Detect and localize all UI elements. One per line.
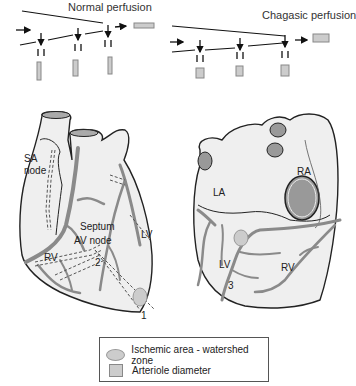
normal-perfusion-schematic xyxy=(16,11,154,80)
label-sa-node-line2: node xyxy=(24,166,46,176)
legend-label-ischemic: Ischemic area - watershed zone xyxy=(131,344,268,366)
heart-anterior-view xyxy=(20,112,155,313)
marker-1: 1 xyxy=(141,311,147,321)
square-swatch-icon xyxy=(109,364,123,377)
label-rv-right: RV xyxy=(281,263,295,273)
legend-item-arteriole: Arteriole diameter xyxy=(106,364,211,377)
ellipse-swatch-icon xyxy=(106,349,125,361)
chagasic-perfusion-title: Chagasic perfusion xyxy=(262,10,356,21)
normal-perfusion-title: Normal perfusion xyxy=(68,2,152,13)
label-av-node: AV node xyxy=(74,236,112,246)
marker-3: 3 xyxy=(228,281,234,291)
label-ra: RA xyxy=(297,167,311,177)
legend-label-arteriole: Arteriole diameter xyxy=(132,365,211,376)
label-rv-left: RV xyxy=(44,253,58,263)
legend-box: Ischemic area - watershed zone Arteriole… xyxy=(99,337,269,382)
label-lv-left: LV xyxy=(141,230,153,240)
label-sa-node-line1: SA xyxy=(24,154,37,164)
label-septum: Septum xyxy=(80,222,114,232)
label-lv-right: LV xyxy=(219,260,231,270)
label-la: LA xyxy=(213,188,225,198)
legend-item-ischemic: Ischemic area - watershed zone xyxy=(106,344,268,366)
heart-posterior-view xyxy=(194,114,340,308)
chagasic-perfusion-schematic xyxy=(170,26,329,78)
marker-2: 2 xyxy=(95,258,101,268)
